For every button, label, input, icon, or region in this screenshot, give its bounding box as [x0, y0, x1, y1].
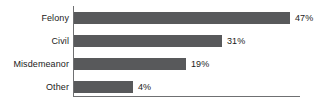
- bar-value-label: 31%: [227, 35, 245, 47]
- category-label: Misdemeanor: [0, 58, 69, 70]
- category-label: Civil: [0, 35, 69, 47]
- category-label: Felony: [0, 12, 69, 24]
- bar-value-label: 4%: [138, 81, 151, 93]
- bar-value-label: 47%: [295, 12, 313, 24]
- bar-row: Misdemeanor19%: [0, 58, 323, 70]
- bar-value-label: 19%: [191, 58, 209, 70]
- bar-row: Other4%: [0, 81, 323, 93]
- category-label: Other: [0, 81, 69, 93]
- x-axis-baseline: [73, 96, 300, 97]
- bar: [74, 35, 222, 47]
- bar: [74, 58, 186, 70]
- bar: [74, 12, 290, 24]
- bar-chart: Felony47%Civil31%Misdemeanor19%Other4%: [0, 0, 323, 108]
- bar-row: Felony47%: [0, 12, 323, 24]
- bar: [74, 81, 133, 93]
- bar-row: Civil31%: [0, 35, 323, 47]
